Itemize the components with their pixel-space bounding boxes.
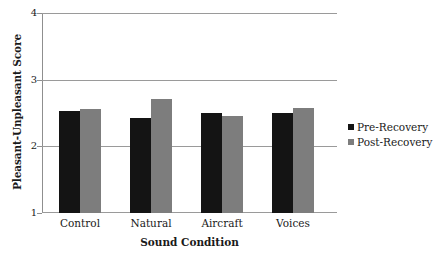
bar-aircraft-pre [201,113,222,213]
legend-label-post: Post-Recovery [357,136,433,148]
y-tick-label-2: 2 [24,141,37,151]
legend-item-post-recovery: Post-Recovery [348,134,440,149]
bars-layer [42,13,337,213]
bar-voices-pre [272,113,293,213]
bar-control-pre [59,111,80,213]
bar-chart-figure: Pleasant-Unpleasant Score 4 3 2 1 [0,0,441,266]
legend-swatch-icon-post [348,139,354,145]
legend-swatch-icon-pre [348,124,354,130]
y-tick-label-4: 4 [24,8,37,18]
bar-voices-post [293,108,314,212]
x-tick-label-voices: Voices [255,216,331,230]
x-axis-title: Sound Condition [42,235,337,249]
x-tick-label-control: Control [42,216,118,230]
y-tick-label-1: 1 [24,208,37,218]
legend-label-pre: Pre-Recovery [357,121,428,133]
y-axis-tick-labels: 4 3 2 1 [24,0,37,266]
chart-legend: Pre-Recovery Post-Recovery [348,119,440,149]
x-tick-label-aircraft: Aircraft [184,216,260,230]
x-tick-label-natural: Natural [113,216,189,230]
bar-natural-post [151,99,172,212]
legend-item-pre-recovery: Pre-Recovery [348,119,440,134]
y-tick-label-3: 3 [24,75,37,85]
x-axis-tick-labels: Control Natural Aircraft Voices [42,216,337,232]
bar-aircraft-post [222,116,243,212]
bar-natural-pre [130,118,151,212]
plot-area [42,13,337,213]
bar-control-post [80,109,101,212]
